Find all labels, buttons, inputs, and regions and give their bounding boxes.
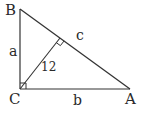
triangle-diagram: B C A a b c 12: [0, 0, 143, 120]
vertex-label-b: B: [5, 1, 16, 19]
side-label-a: a: [9, 43, 17, 59]
altitude-label: 12: [41, 60, 56, 74]
side-label-b: b: [73, 92, 82, 108]
diagram-canvas: B C A a b c 12: [0, 0, 143, 120]
side-c-line: [20, 9, 130, 89]
vertex-label-a: A: [124, 90, 136, 108]
vertex-label-c: C: [9, 90, 20, 108]
side-label-c: c: [76, 27, 84, 43]
